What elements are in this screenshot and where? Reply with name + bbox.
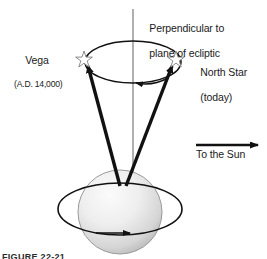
precession-diagram: Perpendicular to plane of ecliptic Vega … xyxy=(0,0,267,259)
diagram-artwork xyxy=(0,0,267,259)
label-north-star: North Star (today) xyxy=(189,54,247,116)
figure-caption-clipped: FIGURE 22-21 xyxy=(2,252,122,259)
vega-date: (A.D. 14,000) xyxy=(14,79,63,89)
axis-toward-vega xyxy=(88,66,120,186)
vega-name: Vega xyxy=(25,54,49,66)
north-star-name: North Star xyxy=(200,66,247,78)
label-vega: Vega (A.D. 14,000) xyxy=(14,42,63,114)
perpendicular-line1: Perpendicular to xyxy=(149,22,224,34)
label-to-the-sun: To the Sun xyxy=(196,148,245,160)
north-star-date: (today) xyxy=(200,91,232,103)
